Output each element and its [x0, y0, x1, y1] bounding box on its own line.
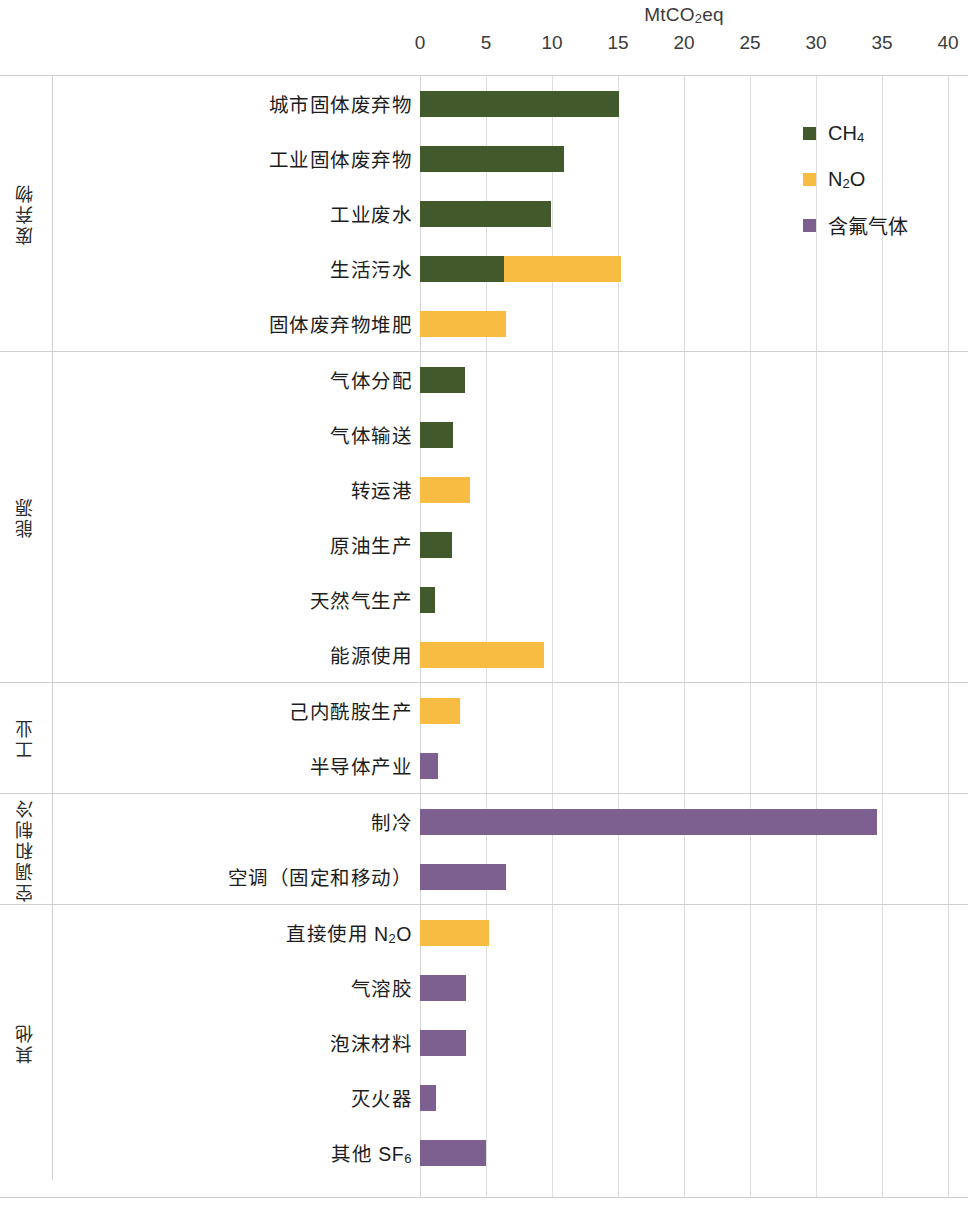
bar-row[interactable]: 气体分配: [0, 352, 968, 407]
group-label: 工业: [0, 683, 52, 793]
bar-track: [420, 146, 564, 172]
bar-row-label: 固体废弃物堆肥: [0, 309, 412, 338]
group-divider: [52, 352, 53, 682]
bar-row-label: 己内酰胺生产: [0, 696, 412, 725]
bar-row-label: 泡沫材料: [0, 1028, 412, 1057]
bar-row-label: 工业废水: [0, 199, 412, 228]
bar-segment-ch4: [420, 146, 564, 172]
bar-row[interactable]: 转运港: [0, 462, 968, 517]
bar-segment-ch4: [420, 587, 435, 613]
bar-row[interactable]: 其他 SF6: [0, 1125, 968, 1180]
legend-swatch-icon: [803, 127, 816, 140]
legend-item-n2o[interactable]: N2O: [803, 156, 908, 202]
bar-row[interactable]: 固体废弃物堆肥: [0, 296, 968, 351]
bar-row[interactable]: 原油生产: [0, 517, 968, 572]
bar-segment-ch4: [420, 91, 619, 117]
bar-row-label: 原油生产: [0, 530, 412, 559]
bar-track: [420, 532, 452, 558]
group-5: 其他直接使用 N2O气溶胶泡沫材料灭火器其他 SF6: [0, 905, 968, 1180]
group-divider: [52, 794, 53, 904]
bar-track: [420, 1085, 436, 1111]
bar-segment-n2o: [420, 477, 470, 503]
group-rows: 制冷空调（固定和移动）: [0, 794, 968, 904]
bar-track: [420, 1140, 486, 1166]
bar-segment-n2o: [504, 256, 620, 282]
bar-row[interactable]: 空调（固定和移动）: [0, 849, 968, 904]
bar-row[interactable]: 天然气生产: [0, 572, 968, 627]
bar-row[interactable]: 能源使用: [0, 627, 968, 682]
group-2: 能源气体分配气体输送转运港原油生产天然气生产能源使用: [0, 352, 968, 683]
bar-track: [420, 809, 877, 835]
bar-row-label: 空调（固定和移动）: [0, 862, 412, 891]
bar-row-label: 生活污水: [0, 254, 412, 283]
bar-row-label: 工业固体废弃物: [0, 144, 412, 173]
bar-row-label: 半导体产业: [0, 751, 412, 780]
bar-row[interactable]: 制冷: [0, 794, 968, 849]
bar-segment-fgas: [420, 1085, 436, 1111]
bar-track: [420, 864, 506, 890]
legend-label: N2O: [828, 168, 865, 191]
bar-track: [420, 698, 460, 724]
x-tick-label-40: 40: [937, 32, 958, 54]
legend-swatch-icon: [803, 219, 816, 232]
emissions-bar-chart: MtCO2eq 0510152025303540 废弃物城市固体废弃物工业固体废…: [0, 0, 968, 1210]
bar-row-label: 转运港: [0, 475, 412, 504]
bar-segment-n2o: [420, 311, 506, 337]
legend: CH4N2O含氟气体: [803, 110, 908, 248]
bar-row-label: 气体分配: [0, 365, 412, 394]
bar-row[interactable]: 灭火器: [0, 1070, 968, 1125]
x-tick-label-35: 35: [871, 32, 892, 54]
bar-row[interactable]: 泡沫材料: [0, 1015, 968, 1070]
bar-segment-fgas: [420, 1030, 466, 1056]
bar-row-label: 城市固体废弃物: [0, 89, 412, 118]
bar-row-label: 直接使用 N2O: [0, 918, 412, 947]
bar-segment-n2o: [420, 920, 489, 946]
bar-track: [420, 753, 438, 779]
bar-segment-ch4: [420, 256, 504, 282]
x-tick-label-5: 5: [481, 32, 492, 54]
bar-row-label: 其他 SF6: [0, 1138, 412, 1167]
bar-segment-n2o: [420, 642, 544, 668]
group-label: 废弃物: [0, 76, 52, 351]
x-axis-tick-labels: 0510152025303540: [0, 32, 968, 56]
legend-item-fgas[interactable]: 含氟气体: [803, 202, 908, 248]
bar-row-label: 天然气生产: [0, 585, 412, 614]
group-divider: [52, 76, 53, 351]
group-4: 空调和制冷制冷空调（固定和移动）: [0, 794, 968, 905]
x-tick-label-0: 0: [415, 32, 426, 54]
legend-label: CH4: [828, 122, 864, 145]
group-rows: 己内酰胺生产半导体产业: [0, 683, 968, 793]
x-tick-label-10: 10: [541, 32, 562, 54]
bar-segment-ch4: [420, 422, 453, 448]
bar-row-label: 气体输送: [0, 420, 412, 449]
bar-track: [420, 422, 453, 448]
bar-track: [420, 201, 551, 227]
bar-track: [420, 311, 506, 337]
group-label: 空调和制冷: [0, 794, 52, 904]
group-divider: [52, 905, 53, 1180]
legend-label: 含氟气体: [828, 211, 908, 240]
x-tick-label-20: 20: [673, 32, 694, 54]
bar-segment-ch4: [420, 201, 551, 227]
bar-row[interactable]: 生活污水: [0, 241, 968, 296]
bar-row-label: 灭火器: [0, 1083, 412, 1112]
bar-track: [420, 91, 619, 117]
group-label: 其他: [0, 905, 52, 1180]
bar-row[interactable]: 气体输送: [0, 407, 968, 462]
bar-row[interactable]: 半导体产业: [0, 738, 968, 793]
bar-row[interactable]: 气溶胶: [0, 960, 968, 1015]
x-tick-label-15: 15: [607, 32, 628, 54]
x-tick-label-30: 30: [805, 32, 826, 54]
bar-row[interactable]: 直接使用 N2O: [0, 905, 968, 960]
bar-segment-fgas: [420, 753, 438, 779]
bar-row-label: 制冷: [0, 807, 412, 836]
legend-item-ch4[interactable]: CH4: [803, 110, 908, 156]
bar-segment-fgas: [420, 975, 466, 1001]
bar-track: [420, 477, 470, 503]
x-tick-label-25: 25: [739, 32, 760, 54]
bar-segment-n2o: [420, 698, 460, 724]
legend-swatch-icon: [803, 173, 816, 186]
group-rows: 气体分配气体输送转运港原油生产天然气生产能源使用: [0, 352, 968, 682]
group-divider: [52, 683, 53, 793]
bar-row[interactable]: 己内酰胺生产: [0, 683, 968, 738]
